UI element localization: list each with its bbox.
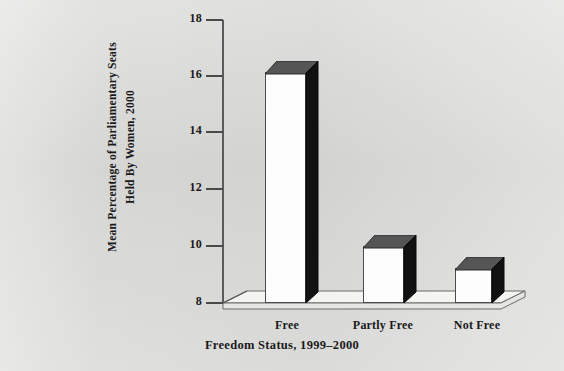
bar-free-side-face xyxy=(305,61,321,306)
x-axis-label-free: Free xyxy=(262,319,312,331)
bar-partly-free-side-face xyxy=(403,235,419,307)
bar-not-free-side-face xyxy=(491,257,507,307)
bar-free-front-face xyxy=(265,72,306,303)
bar-free[interactable] xyxy=(265,0,323,371)
bar-not-free[interactable] xyxy=(455,0,513,371)
bar-not-free-front-face xyxy=(455,268,492,303)
bar-chart-figure: 18 16 14 12 10 8 Mean Percentage of Parl… xyxy=(0,0,564,371)
x-axis-label-partly-free: Partly Free xyxy=(340,319,426,331)
bar-partly-free[interactable] xyxy=(363,0,421,371)
y-axis-title: Mean Percentage of Parliamentary Seats H… xyxy=(0,22,247,272)
y-tick-mark-8 xyxy=(206,302,223,304)
bar-partly-free-front-face xyxy=(363,246,404,303)
y-axis-title-line-2: Held By Women, 2000 xyxy=(122,42,140,252)
x-axis-title: Freedom Status, 1999–2000 xyxy=(0,338,564,353)
y-tick-mark-18 xyxy=(206,19,223,21)
y-axis-title-line-1: Mean Percentage of Parliamentary Seats xyxy=(104,42,122,252)
x-axis-label-not-free: Not Free xyxy=(441,319,513,331)
y-tick-label-8: 8 xyxy=(172,295,202,307)
